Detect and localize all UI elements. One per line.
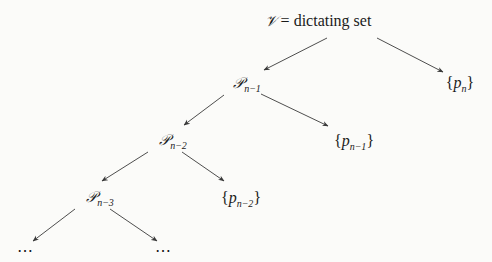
node-subscript: n−1 [350,141,367,152]
tree-diagram: 𝒱 = dictating set 𝒫n−1 {pn} 𝒫n−2 {pn−1} … [0,0,492,262]
node-P-n-minus-3: 𝒫n−3 [86,189,114,205]
edge-Pn2-to-Pn3 [102,152,148,181]
root-node-dictating-set: 𝒱 = dictating set [265,13,372,29]
node-ellipsis-left: ⋯ [17,243,33,259]
node-set-p-n-minus-2: {pn−2} [221,190,261,206]
root-label: dictating set [294,12,372,29]
edge-Pn1-to-pn1 [261,94,328,126]
edges-layer [0,0,492,262]
node-subscript: n−2 [237,198,254,209]
node-symbol: 𝒫 [233,74,244,92]
edge-Pn2-to-pn2 [182,152,224,181]
node-subscript: n−3 [97,197,114,208]
node-var: p [342,132,350,149]
node-ellipsis-right: ⋯ [155,243,171,259]
node-P-n-minus-1: 𝒫n−1 [233,75,261,91]
node-symbol: 𝒫 [159,131,170,149]
node-set-p-n: {pn} [446,75,474,91]
node-P-n-minus-2: 𝒫n−2 [159,132,187,148]
brace-open: { [334,132,342,149]
node-symbol: 𝒫 [86,188,97,206]
brace-close: } [366,132,374,149]
node-var: p [229,189,237,206]
root-equals: = [277,12,294,29]
edge-Pn3-to-dotsR [110,209,157,241]
node-subscript: n−1 [244,83,261,94]
brace-close: } [253,189,261,206]
root-symbol: 𝒱 [265,12,277,30]
node-subscript: n−2 [170,140,187,151]
node-set-p-n-minus-1: {pn−1} [334,133,374,149]
brace-open: { [221,189,229,206]
edge-root-to-Pn1 [264,38,327,70]
edge-Pn3-to-dotsL [33,209,75,241]
node-var: p [454,74,462,91]
edge-Pn1-to-Pn2 [184,95,224,125]
ellipsis-label: ⋯ [17,242,33,259]
brace-open: { [446,74,454,91]
brace-close: } [467,74,475,91]
edge-root-to-pn [377,38,443,72]
ellipsis-label: ⋯ [155,242,171,259]
